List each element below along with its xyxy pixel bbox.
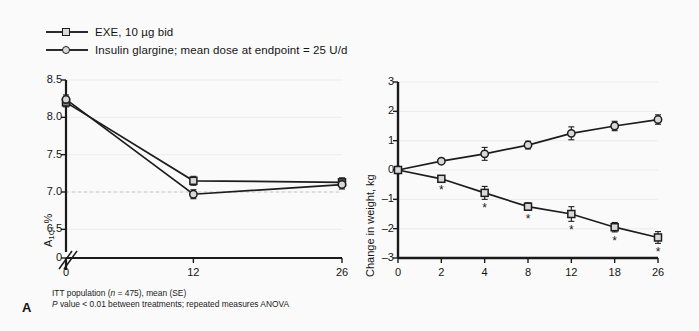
a1c-x-tick-0: 0 (46, 266, 86, 278)
footnotes: ITT population (n = 475), mean (SE) P va… (52, 288, 289, 309)
circle-marker-icon (46, 44, 88, 56)
legend-item-exe: EXE, 10 µg bid (46, 24, 348, 40)
a1c-y-tick-7.5: 7.5 (22, 148, 62, 160)
a1c-y-tick-0: 0 (22, 251, 62, 263)
figure-panel-a: EXE, 10 µg bid Insulin glargine; mean do… (0, 0, 699, 331)
weight-y-tick-1: 1 (354, 134, 394, 146)
weight-y-tick--1: –1 (354, 192, 394, 204)
legend: EXE, 10 µg bid Insulin glargine; mean do… (46, 24, 348, 60)
legend-item-insulin-glargine: Insulin glargine; mean dose at endpoint … (46, 42, 348, 58)
a1c-x-tick-12: 12 (173, 266, 213, 278)
chart-a1c: A1C, % Time, wk 8.58.07.57.06.5001226 (30, 72, 350, 287)
weight-x-tick-8: 8 (508, 266, 548, 278)
significance-asterisk: * (612, 234, 617, 248)
square-marker-icon (46, 26, 88, 38)
weight-x-tick-26: 26 (638, 266, 678, 278)
legend-label-insulin-glargine: Insulin glargine; mean dose at endpoint … (95, 44, 348, 56)
footnote-itt-population: ITT population (n = 475), mean (SE) (52, 288, 289, 299)
significance-asterisk: * (439, 183, 444, 197)
weight-x-tick-12: 12 (551, 266, 591, 278)
significance-asterisk: * (656, 245, 661, 259)
a1c-y-tick-6.5: 6.5 (22, 222, 62, 234)
panel-label: A (22, 300, 31, 315)
significance-asterisk: * (526, 212, 531, 226)
weight-y-tick-0: 0 (354, 163, 394, 175)
weight-y-tick-3: 3 (354, 75, 394, 87)
legend-label-exe: EXE, 10 µg bid (95, 26, 173, 38)
a1c-y-tick-8.0: 8.0 (22, 110, 62, 122)
weight-x-tick-4: 4 (465, 266, 505, 278)
weight-y-tick--3: –3 (354, 251, 394, 263)
weight-x-tick-2: 2 (421, 266, 461, 278)
a1c-x-tick-26: 26 (322, 266, 362, 278)
significance-asterisk: * (482, 201, 487, 215)
weight-plot-area: ****** (358, 72, 673, 287)
weight-y-tick-2: 2 (354, 104, 394, 116)
weight-x-tick-0: 0 (378, 266, 418, 278)
a1c-y-tick-8.5: 8.5 (22, 73, 62, 85)
a1c-y-tick-7.0: 7.0 (22, 185, 62, 197)
significance-asterisk: * (569, 223, 574, 237)
a1c-plot-area (30, 72, 350, 287)
footnote-p-value: P value < 0.01 between treatments; repea… (52, 299, 289, 310)
chart-weight-change: ****** Change in weight, kg Time, wk 321… (358, 72, 673, 287)
weight-x-tick-18: 18 (595, 266, 635, 278)
weight-y-tick--2: –2 (354, 222, 394, 234)
